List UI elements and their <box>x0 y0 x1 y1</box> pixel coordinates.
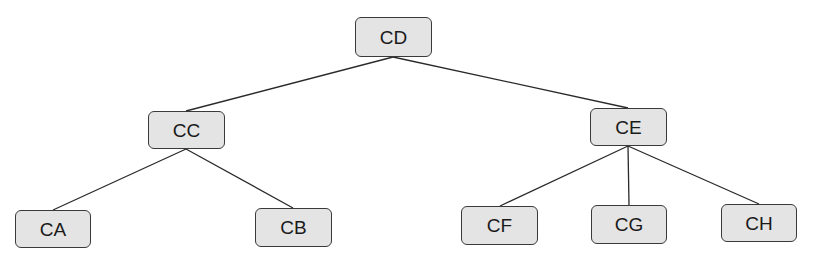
edge-ce-cg <box>628 146 629 205</box>
edge-cc-ca <box>53 149 186 210</box>
node-label: CF <box>487 216 512 235</box>
node-label: CH <box>745 214 772 233</box>
node-cg[interactable]: CG <box>591 205 667 244</box>
node-cc[interactable]: CC <box>148 111 225 149</box>
edge-cc-cb <box>186 149 293 208</box>
node-label: CA <box>40 220 66 239</box>
node-label: CB <box>280 218 306 237</box>
node-cb[interactable]: CB <box>255 208 332 247</box>
node-ch[interactable]: CH <box>721 204 797 242</box>
edge-ce-ch <box>628 146 759 204</box>
node-label: CE <box>615 118 641 137</box>
node-label: CD <box>380 28 407 47</box>
node-cd[interactable]: CD <box>355 17 432 57</box>
edge-cd-cc <box>186 57 393 111</box>
tree-diagram: CD CC CE CA CB CF CG CH <box>0 0 822 266</box>
node-label: CG <box>615 215 644 234</box>
node-cf[interactable]: CF <box>461 206 538 245</box>
node-ca[interactable]: CA <box>15 210 91 248</box>
node-ce[interactable]: CE <box>590 108 667 146</box>
edge-cd-ce <box>393 57 628 108</box>
node-label: CC <box>173 121 200 140</box>
edge-ce-cf <box>500 146 628 206</box>
